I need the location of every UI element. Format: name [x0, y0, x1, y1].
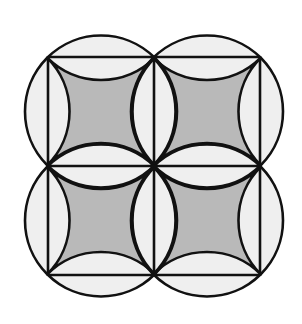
geometry-figure [0, 0, 302, 324]
figure-canvas [0, 0, 302, 324]
stroke-layer [25, 36, 283, 297]
